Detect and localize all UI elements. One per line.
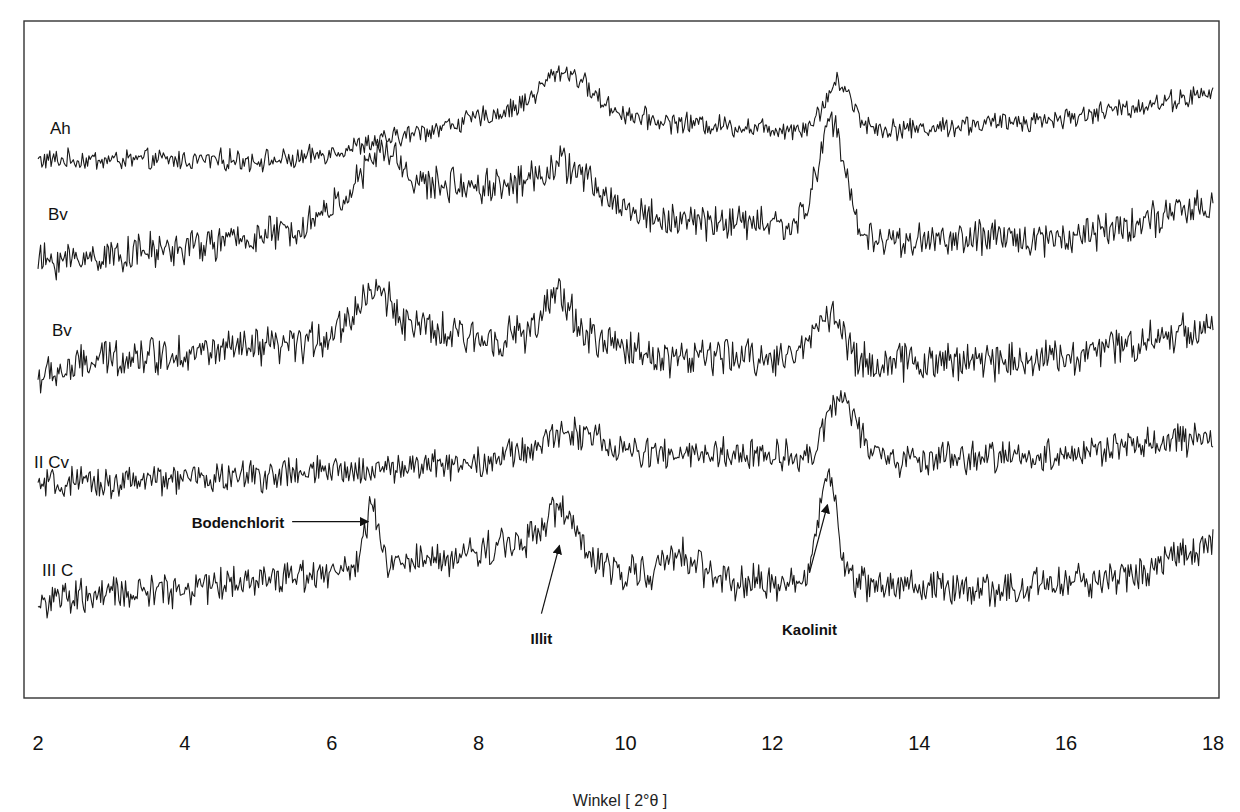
- annotation-arrow: [809, 505, 827, 573]
- annotation-label: Kaolinit: [782, 621, 837, 638]
- trace-bv-2: [38, 279, 1213, 393]
- x-tick-label: 2: [32, 732, 43, 754]
- x-axis-title: Winkel [ 2°θ ]: [573, 792, 667, 809]
- x-tick-label: 16: [1055, 732, 1077, 754]
- x-tick-labels: 24681012141618: [32, 732, 1224, 754]
- x-tick-label: 14: [908, 732, 930, 754]
- xrd-chart: AhBvBvII CvIII C BodenchloritIllitKaolin…: [0, 0, 1240, 812]
- x-tick-label: 12: [761, 732, 783, 754]
- traces: [38, 66, 1213, 618]
- x-tick-label: 8: [473, 732, 484, 754]
- x-tick-label: 18: [1202, 732, 1224, 754]
- x-tick-label: 10: [614, 732, 636, 754]
- trace-ii-cv-3: [38, 391, 1213, 499]
- trace-bv-1: [38, 112, 1213, 280]
- trace-labels: AhBvBvII CvIII C: [34, 119, 73, 580]
- trace-label: Bv: [52, 321, 72, 340]
- trace-label: II Cv: [34, 453, 69, 472]
- trace-label: Ah: [50, 119, 71, 138]
- trace-label: Bv: [48, 205, 68, 224]
- annotation-label: Bodenchlorit: [192, 514, 285, 531]
- x-tick-label: 6: [326, 732, 337, 754]
- trace-iii-c-4: [38, 469, 1213, 618]
- trace-ah-0: [38, 66, 1213, 172]
- annotation-label: Illit: [531, 630, 553, 647]
- annotation-arrow: [541, 546, 559, 614]
- x-tick-label: 4: [179, 732, 190, 754]
- trace-label: III C: [42, 561, 73, 580]
